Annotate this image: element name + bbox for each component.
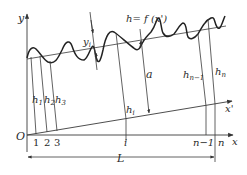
- tick-n: n: [218, 137, 224, 148]
- h1-label: h1: [32, 94, 43, 107]
- hn1-line: [198, 34, 206, 106]
- hi-label: hi: [126, 104, 135, 117]
- tick-3: 3: [54, 137, 60, 148]
- tick-1: 1: [33, 137, 39, 148]
- a-label: a: [146, 68, 153, 81]
- h3-label: h3: [55, 94, 66, 107]
- hn-line: [208, 19, 215, 104]
- yi-label: yi: [82, 36, 91, 49]
- hi-line: [116, 33, 126, 119]
- tick-n-minus-1: n−1: [193, 137, 214, 148]
- hn1-label: hn−1: [183, 69, 204, 82]
- tick-i: i: [124, 137, 127, 148]
- y-axis-label: y: [17, 12, 25, 25]
- hn-label: hn: [215, 66, 226, 79]
- length-label: L: [116, 152, 124, 165]
- profile-diagram: y O x x' h= f (x') yi a L h1 h2 h3 hi hn…: [0, 0, 247, 175]
- x-axis-label: x: [232, 136, 238, 147]
- function-label: h= f (x'): [126, 13, 167, 24]
- tick-2: 2: [44, 137, 50, 148]
- x-prime-label: x': [225, 103, 233, 114]
- diagram-canvas: y O x x' h= f (x') yi a L h1 h2 h3 hi hn…: [0, 0, 247, 175]
- origin-label: O: [16, 130, 25, 143]
